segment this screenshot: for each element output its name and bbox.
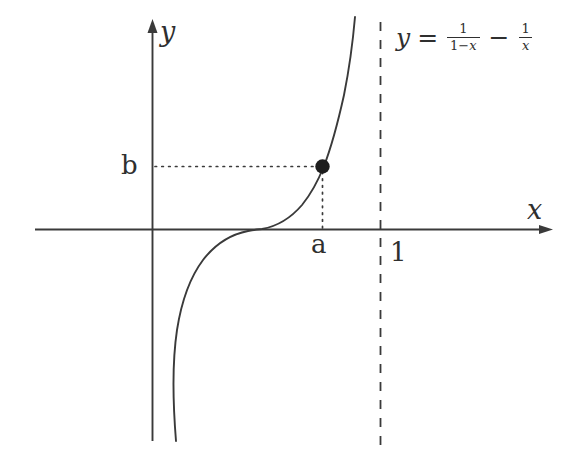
function-graph-figure <box>0 0 580 474</box>
first-fraction-numerator: 1 <box>456 22 470 37</box>
first-fraction-denominator: 1−x <box>447 37 480 53</box>
equation-first-fraction: 1 1−x <box>447 22 480 53</box>
x-value-label-one: 1 <box>390 239 407 265</box>
x-axis-arrowhead <box>539 225 553 234</box>
denominator-minus-sign: − <box>458 38 469 53</box>
y-axis-label: y <box>160 18 175 45</box>
equation-equals-sign: = <box>417 23 438 52</box>
y-axis-arrowhead <box>148 19 158 33</box>
equation-label: y = 1 1−x − 1 x <box>396 22 535 53</box>
y-value-label-b: b <box>121 152 138 178</box>
x-value-label-a: a <box>311 231 327 257</box>
x-axis-label: x <box>527 196 542 223</box>
second-fraction-denominator: x <box>519 37 532 53</box>
second-denominator-variable: x <box>522 38 529 53</box>
equation-minus-sign: − <box>489 23 510 52</box>
equation-second-fraction: 1 x <box>519 22 533 53</box>
denominator-variable: x <box>469 38 476 53</box>
marked-point-dot <box>315 159 329 173</box>
equation-lhs: y <box>396 23 410 52</box>
second-fraction-numerator: 1 <box>519 22 533 37</box>
